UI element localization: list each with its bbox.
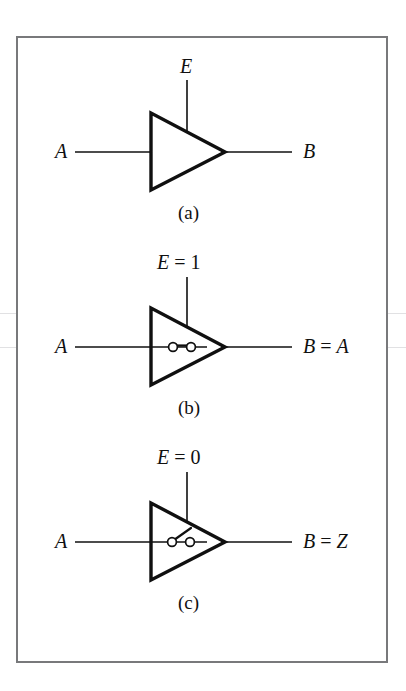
panel-a-input-label: A (55, 141, 67, 161)
panel-a-caption: (a) (178, 203, 199, 222)
panel-b-enable-label: E = 1 (157, 252, 201, 272)
panel-b-enable-value: 1 (191, 251, 201, 273)
panel-a-enable-label: E (180, 56, 192, 76)
panel-c-output-value: Z (337, 530, 348, 552)
panel-c-enable-op: = (174, 446, 185, 468)
panel-b-input-label: A (55, 336, 67, 356)
panel-c-output-op: = (320, 530, 331, 552)
panel-c-output-label: B = Z (303, 531, 348, 551)
panel-c-caption: (c) (178, 593, 199, 612)
panel-b-caption: (b) (178, 398, 200, 417)
panel-b-output-value: A (337, 335, 349, 357)
panel-b-output-label: B = A (303, 336, 349, 356)
panel-c-enable-label: E = 0 (157, 447, 201, 467)
panel-c-enable-var: E (157, 446, 169, 468)
panel-b-output-op: = (320, 335, 331, 357)
panel-c-input-label: A (55, 531, 67, 551)
panel-b-enable-op: = (174, 251, 185, 273)
panel-c-enable-value: 0 (191, 446, 201, 468)
panel-a-output-label: B (303, 141, 315, 161)
panel-b-output-var: B (303, 335, 315, 357)
panel-b-enable-var: E (157, 251, 169, 273)
panel-c-output-var: B (303, 530, 315, 552)
figure-root: A E B (a) A E = 1 B = A (b) A E = 0 B = … (0, 0, 406, 691)
